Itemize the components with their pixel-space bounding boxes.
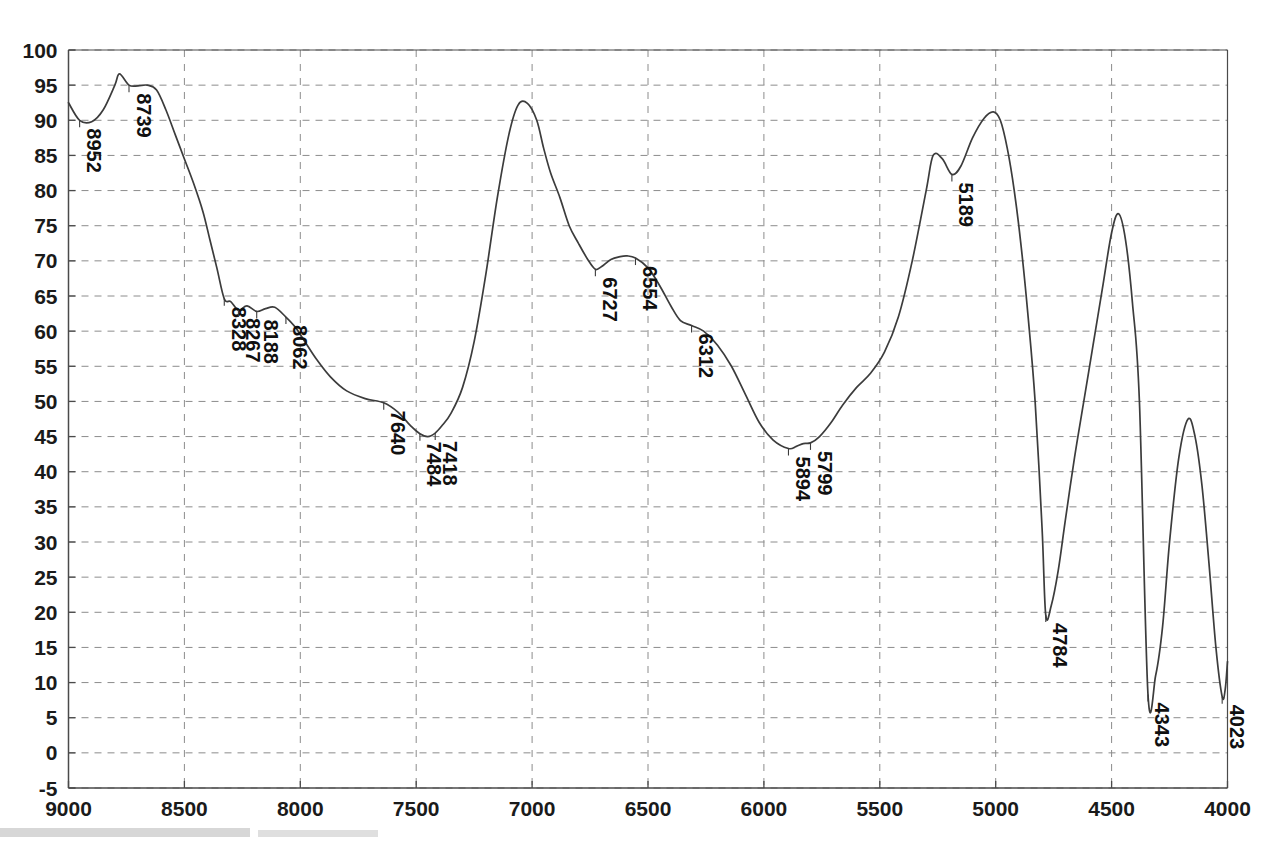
peak-annotation: 5894 [788, 449, 813, 502]
scan-artifact [258, 830, 378, 837]
peak-label: 8739 [133, 93, 155, 138]
peak-label: 5189 [955, 182, 977, 227]
x-tick-label: 4000 [1204, 797, 1251, 820]
peak-annotation: 5799 [810, 443, 835, 496]
y-tick-label: 80 [34, 179, 57, 202]
y-tick-label: 20 [34, 601, 57, 624]
peak-label: 5799 [814, 451, 836, 496]
peak-annotation: 6312 [692, 326, 718, 379]
peak-label: 6554 [639, 266, 661, 311]
y-tick-label: 90 [34, 109, 57, 132]
peak-label: 4343 [1151, 703, 1173, 748]
peak-label: 8952 [83, 128, 105, 173]
x-tick-label: 6000 [741, 797, 788, 820]
y-tick-label: 60 [34, 320, 57, 343]
peak-label: 5894 [792, 457, 814, 502]
peak-label: 7640 [387, 411, 409, 456]
peak-label: 4023 [1226, 705, 1248, 750]
peak-annotation: 6727 [595, 269, 620, 321]
y-tick-label: -5 [39, 777, 58, 800]
peak-annotation: 8739 [129, 85, 155, 137]
scan-artifact [0, 828, 250, 837]
peak-annotation: 8952 [80, 120, 106, 173]
x-tick-label: 4500 [1088, 797, 1135, 820]
x-tick-label: 9000 [45, 797, 92, 820]
x-tick-label: 5500 [856, 797, 903, 820]
x-tick-label: 8000 [277, 797, 324, 820]
peak-annotation: 4343 [1148, 695, 1173, 748]
y-tick-label: 25 [34, 566, 58, 589]
peak-annotation: 8188 [257, 311, 282, 363]
peak-label: 6727 [599, 277, 621, 322]
spectrum-chart: 8952873983288267818880627640748474186727… [0, 0, 1275, 856]
y-tick-label: 45 [34, 425, 58, 448]
peak-label: 6312 [695, 334, 717, 379]
x-tick-label: 7500 [393, 797, 440, 820]
peak-annotation: 5189 [952, 174, 978, 227]
y-tick-label: 35 [34, 495, 58, 518]
y-tick-label: 5 [46, 706, 58, 729]
peak-annotation: 4784 [1046, 615, 1072, 668]
x-tick-label: 7000 [509, 797, 556, 820]
y-tick-label: 15 [34, 636, 58, 659]
y-tick-label: 40 [34, 460, 57, 483]
y-tick-label: 65 [34, 285, 58, 308]
peak-annotation: 7640 [384, 403, 410, 455]
chart-background [0, 0, 1275, 856]
y-tick-label: 10 [34, 671, 57, 694]
y-tick-label: 55 [34, 355, 58, 378]
peak-annotation: 6554 [635, 258, 660, 311]
peak-annotation: 7418 [435, 433, 461, 486]
y-tick-label: 70 [34, 249, 57, 272]
y-tick-label: 0 [46, 741, 58, 764]
y-tick-label: 50 [34, 390, 57, 413]
x-tick-label: 6500 [625, 797, 672, 820]
peak-label: 8188 [260, 319, 282, 364]
y-tick-label: 30 [34, 531, 57, 554]
peak-label: 8062 [289, 325, 311, 370]
x-tick-label: 8500 [161, 797, 208, 820]
peak-label: 7418 [439, 441, 461, 486]
y-tick-label: 100 [22, 39, 57, 62]
spectrum-svg: 8952873983288267818880627640748474186727… [0, 0, 1275, 856]
peak-annotation: 8062 [286, 317, 312, 370]
y-tick-label: 95 [34, 74, 58, 97]
y-tick-label: 75 [34, 214, 58, 237]
x-tick-label: 5000 [972, 797, 1019, 820]
y-tick-label: 85 [34, 144, 58, 167]
peak-label: 4784 [1049, 623, 1071, 668]
peak-annotation: 8267 [238, 310, 264, 363]
peak-annotation: 4023 [1222, 697, 1248, 750]
